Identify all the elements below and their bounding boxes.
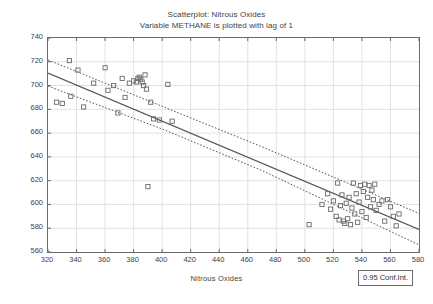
data-point bbox=[106, 88, 110, 92]
y-tick-label: 660 bbox=[17, 128, 43, 136]
data-points bbox=[54, 58, 401, 227]
data-point bbox=[120, 76, 124, 80]
x-tick-label: 360 bbox=[91, 256, 117, 264]
data-point bbox=[351, 181, 355, 185]
regression-line bbox=[48, 73, 419, 229]
data-point bbox=[346, 217, 350, 221]
data-point bbox=[371, 198, 375, 202]
plot-area bbox=[47, 37, 420, 253]
x-tick-label: 380 bbox=[120, 256, 146, 264]
data-point bbox=[336, 181, 340, 185]
x-tick-label: 400 bbox=[148, 256, 174, 264]
x-tick-label: 320 bbox=[34, 256, 60, 264]
x-tick-label: 540 bbox=[348, 256, 374, 264]
data-point bbox=[328, 207, 332, 211]
x-tick-label: 480 bbox=[262, 256, 288, 264]
scatterplot-screenshot: Scatterplot: Nitrous Oxides Variable MET… bbox=[0, 0, 433, 304]
x-tick-label: 520 bbox=[319, 256, 345, 264]
data-point bbox=[307, 223, 311, 227]
data-point bbox=[350, 206, 354, 210]
y-tick-label: 560 bbox=[17, 247, 43, 255]
data-point bbox=[146, 185, 150, 189]
data-point bbox=[373, 182, 377, 186]
x-tick-label: 440 bbox=[205, 256, 231, 264]
y-tick-label: 740 bbox=[17, 33, 43, 41]
x-tick-label: 460 bbox=[234, 256, 260, 264]
y-tick-label: 640 bbox=[17, 152, 43, 160]
data-point bbox=[363, 182, 367, 186]
x-tick-label: 340 bbox=[63, 256, 89, 264]
legend-conf-int: 0.95 Conf.Int. bbox=[358, 270, 413, 286]
data-point bbox=[54, 100, 58, 104]
chart-title-block: Scatterplot: Nitrous Oxides Variable MET… bbox=[0, 9, 433, 31]
plot-canvas bbox=[48, 38, 419, 252]
data-point bbox=[366, 195, 370, 199]
x-tick-label: 580 bbox=[405, 256, 431, 264]
data-point bbox=[383, 219, 387, 223]
x-tick-label: 560 bbox=[376, 256, 402, 264]
y-tick-label: 580 bbox=[17, 223, 43, 231]
x-tick-label: 420 bbox=[177, 256, 203, 264]
data-point bbox=[123, 95, 127, 99]
data-point bbox=[394, 224, 398, 228]
y-tick-label: 720 bbox=[17, 57, 43, 65]
data-point bbox=[143, 73, 147, 77]
data-point bbox=[127, 81, 131, 85]
data-point bbox=[82, 105, 86, 109]
data-point bbox=[60, 101, 64, 105]
y-tick-label: 700 bbox=[17, 81, 43, 89]
y-tick-label: 680 bbox=[17, 104, 43, 112]
y-tick-label: 600 bbox=[17, 199, 43, 207]
chart-title: Scatterplot: Nitrous Oxides bbox=[0, 9, 433, 20]
data-point bbox=[367, 183, 371, 187]
data-point bbox=[170, 119, 174, 123]
confidence-band-lines bbox=[48, 60, 419, 245]
x-tick-label: 500 bbox=[291, 256, 317, 264]
data-point bbox=[326, 192, 330, 196]
data-point bbox=[348, 223, 352, 227]
data-point bbox=[354, 192, 358, 196]
chart-subtitle: Variable METHANE is plotted with lag of … bbox=[0, 20, 433, 31]
data-point bbox=[370, 188, 374, 192]
data-point bbox=[356, 220, 360, 224]
data-point bbox=[397, 212, 401, 216]
y-tick-label: 620 bbox=[17, 176, 43, 184]
data-point bbox=[92, 81, 96, 85]
